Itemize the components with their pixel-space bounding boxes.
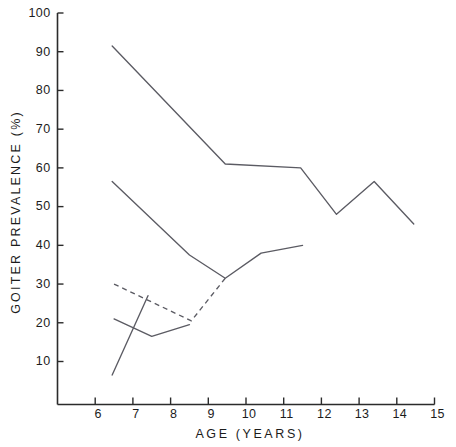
x-tick-labels: 6789101112131415 (95, 407, 445, 421)
x-axis-title: AGE (YEARS) (195, 427, 304, 441)
x-tick-label-15: 15 (430, 407, 445, 421)
line-chart-plot: 102030405060708090100 6789101112131415 A… (0, 0, 456, 447)
x-tick-label-12: 12 (317, 407, 332, 421)
x-tick-label-6: 6 (95, 407, 102, 421)
y-tick-label-40: 40 (36, 238, 51, 252)
x-tick-label-11: 11 (280, 407, 294, 421)
x-tick-label-13: 13 (355, 407, 370, 421)
y-tick-label-20: 20 (36, 316, 51, 330)
y-tick-label-50: 50 (36, 199, 51, 213)
data-series-group (112, 46, 414, 375)
series-4-lower-solid-v (114, 319, 189, 336)
y-tick-label-100: 100 (28, 6, 50, 20)
axes-group (58, 13, 435, 405)
y-tick-label-60: 60 (36, 161, 51, 175)
x-tick-label-10: 10 (242, 407, 257, 421)
x-tick-marks (95, 398, 434, 405)
series-3-dashed (114, 278, 225, 321)
x-tick-label-7: 7 (132, 407, 139, 421)
x-tick-label-14: 14 (392, 407, 407, 421)
y-axis-title: GOITER PREVALENCE (%) (9, 110, 23, 314)
y-tick-label-80: 80 (36, 83, 51, 97)
series-5-steep-ascending-solid (112, 296, 148, 375)
y-tick-marks (58, 13, 64, 362)
y-tick-label-90: 90 (36, 45, 51, 59)
series-1-upper-solid (112, 46, 414, 224)
y-tick-label-30: 30 (36, 277, 51, 291)
y-tick-label-10: 10 (36, 354, 51, 368)
series-2-middle-solid (112, 181, 302, 278)
y-tick-label-70: 70 (36, 122, 51, 136)
chart-figure: 102030405060708090100 6789101112131415 A… (0, 0, 456, 447)
y-tick-labels: 102030405060708090100 (28, 6, 50, 369)
x-tick-label-9: 9 (208, 407, 215, 421)
x-tick-label-8: 8 (170, 407, 177, 421)
